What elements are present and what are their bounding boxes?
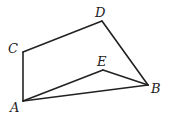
- geometry-diagram: A B C D E: [0, 0, 170, 118]
- label-point-c: C: [8, 41, 18, 56]
- label-point-a: A: [9, 100, 19, 115]
- segment-db: [102, 21, 148, 85]
- segment-cd: [23, 21, 102, 52]
- label-point-e: E: [96, 54, 107, 69]
- segment-eb: [103, 70, 148, 85]
- label-point-b: B: [150, 81, 161, 96]
- label-point-d: D: [94, 5, 106, 20]
